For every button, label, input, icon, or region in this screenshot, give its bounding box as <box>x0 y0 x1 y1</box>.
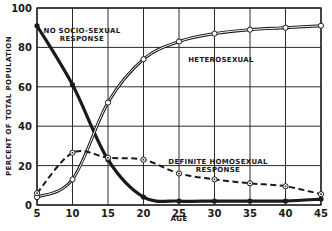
data-point-marker <box>247 27 252 32</box>
x-tick-label: 15 <box>101 208 115 219</box>
series-label: DEFINITE HOMOSEXUAL <box>168 158 268 166</box>
data-point-marker <box>247 198 252 203</box>
data-point-marker <box>212 31 217 36</box>
y-tick-label: 100 <box>11 3 32 14</box>
data-point-marker <box>141 195 146 200</box>
x-tick-label: 10 <box>66 208 80 219</box>
data-point-marker <box>34 23 39 28</box>
series-label: NO SOCIO-SEXUAL <box>43 27 120 35</box>
series-label: RESPONSE <box>60 35 104 43</box>
x-tick-label: 5 <box>34 208 41 219</box>
x-tick-label: 45 <box>314 208 328 219</box>
data-point-marker <box>212 198 217 203</box>
y-axis-ticks: 020406080100 <box>11 3 32 211</box>
y-tick-label: 60 <box>18 82 32 93</box>
data-point-marker <box>283 198 288 203</box>
x-axis-title: AGE <box>170 215 187 223</box>
y-tick-label: 20 <box>18 161 32 172</box>
y-tick-label: 40 <box>18 121 32 132</box>
series-label: RESPONSE <box>196 166 240 174</box>
y-tick-label: 80 <box>18 42 32 53</box>
data-point-marker <box>105 100 110 105</box>
data-point-marker <box>70 82 75 87</box>
x-tick-label: 30 <box>208 208 222 219</box>
data-point-marker <box>176 39 181 44</box>
x-tick-label: 20 <box>137 208 151 219</box>
y-tick-label: 0 <box>25 200 32 211</box>
x-tick-label: 35 <box>243 208 257 219</box>
y-axis-title: PERCENT OF TOTAL POPULATION <box>5 36 13 176</box>
data-point-marker <box>318 23 323 28</box>
data-point-marker <box>70 177 75 182</box>
data-point-marker <box>318 196 323 201</box>
line-chart: 020406080100 51015202530354045 PERCENT O… <box>0 0 332 231</box>
data-point-marker <box>283 25 288 30</box>
data-point-marker <box>141 57 146 62</box>
data-point-marker <box>176 198 181 203</box>
x-tick-label: 40 <box>279 208 293 219</box>
series-label: HETEROSEXUAL <box>188 56 254 64</box>
